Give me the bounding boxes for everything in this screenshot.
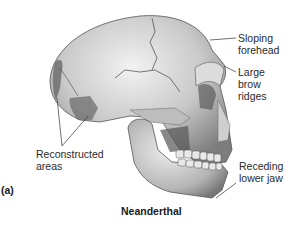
label-reconstructed-areas: Reconstructed areas <box>36 148 104 172</box>
label-receding-lower-jaw: Receding lower jaw <box>239 160 283 184</box>
label-sloping-forehead: Sloping forehead <box>238 32 279 56</box>
label-line: Receding <box>239 160 283 172</box>
label-line: forehead <box>238 44 279 56</box>
figure-title: Neanderthal <box>121 205 182 217</box>
panel-label: (a) <box>1 184 14 196</box>
label-line: ridges <box>238 90 287 102</box>
label-line: Large brow <box>238 66 287 90</box>
label-line: areas <box>36 160 104 172</box>
label-line: lower jaw <box>239 172 283 184</box>
label-large-brow-ridges: Large brow ridges <box>238 66 287 102</box>
label-line: Reconstructed <box>36 148 104 160</box>
label-line: Sloping <box>238 32 279 44</box>
